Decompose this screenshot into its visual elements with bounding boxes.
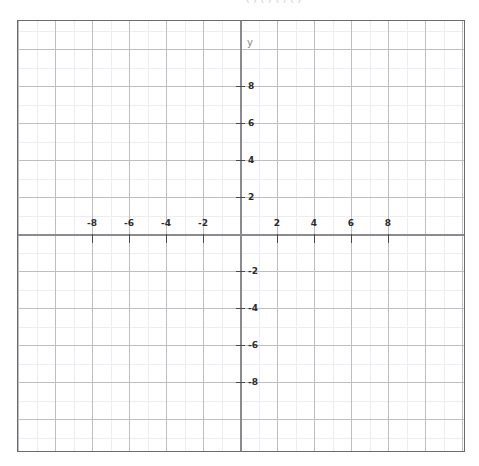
- x-axis-tick-label: -8: [80, 218, 104, 228]
- x-axis-tick-label: 2: [265, 218, 289, 228]
- x-axis-tick-label: 4: [302, 218, 326, 228]
- y-axis-tick-label: -4: [248, 303, 272, 313]
- x-axis-tick-label: 6: [339, 218, 363, 228]
- y-axis-tick-label: 2: [248, 192, 272, 202]
- top-caption-strip: ( ) ( ) ( ) ( ): [0, 0, 479, 9]
- x-axis-tick-label: -2: [191, 218, 215, 228]
- x-axis-tick-label: -6: [117, 218, 141, 228]
- y-axis-tick-label: -2: [248, 266, 272, 276]
- top-caption-text: ( ) ( ) ( ) ( ): [246, 0, 302, 4]
- x-axis-tick-label: -4: [154, 218, 178, 228]
- y-axis-tick-label: 6: [248, 118, 272, 128]
- y-axis-tick-label: -6: [248, 340, 272, 350]
- x-axis-tick-label: 8: [376, 218, 400, 228]
- coordinate-grid-plot: -8-6-4-224688642-2-4-6-8 x y: [17, 20, 465, 452]
- y-axis-tick-label: -8: [248, 377, 272, 387]
- y-axis-tick-label: 4: [248, 155, 272, 165]
- axis-tick-labels: -8-6-4-224688642-2-4-6-8: [18, 21, 464, 451]
- y-axis-tick-label: 8: [248, 81, 272, 91]
- y-axis-label: y: [247, 38, 253, 48]
